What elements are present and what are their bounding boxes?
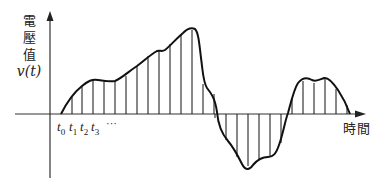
x-axis-label: 時間 bbox=[343, 118, 371, 137]
tick-subscript: 2 bbox=[84, 127, 89, 137]
time-tick-t3: t3 bbox=[91, 119, 99, 137]
y-axis-label: 電 壓 值 v(t) bbox=[14, 12, 44, 80]
time-tick-t2: t2 bbox=[80, 119, 88, 137]
y-axis-arrow-icon bbox=[47, 11, 54, 21]
time-tick-t0: t0 bbox=[57, 119, 65, 137]
tick-subscript: 3 bbox=[95, 127, 100, 137]
tick-subscript: 0 bbox=[61, 127, 66, 137]
y-axis-variable: v(t) bbox=[14, 63, 44, 80]
x-axis-arrow-icon bbox=[355, 111, 366, 118]
sample-lines bbox=[72, 30, 347, 166]
y-axis-label-line: 電 bbox=[14, 12, 44, 29]
signal-plot bbox=[0, 0, 383, 187]
tick-ellipsis: ··· bbox=[106, 117, 117, 129]
y-axis-label-line: 壓 bbox=[14, 29, 44, 46]
time-tick-t1: t1 bbox=[69, 119, 77, 137]
tick-subscript: 1 bbox=[73, 127, 78, 137]
sampling-diagram: 電 壓 值 v(t) 時間 t0 t1 t2 t3 ··· bbox=[0, 0, 383, 187]
y-axis-label-line: 值 bbox=[14, 46, 44, 63]
